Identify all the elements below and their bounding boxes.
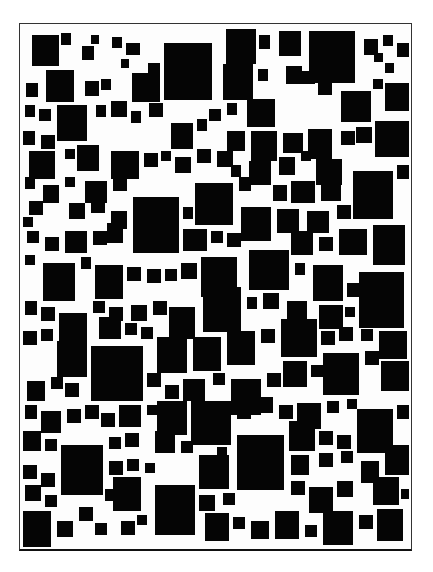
black-square bbox=[41, 411, 61, 433]
black-square bbox=[397, 405, 409, 419]
black-square bbox=[137, 515, 147, 525]
black-square bbox=[144, 153, 158, 167]
black-square bbox=[347, 399, 357, 409]
black-square bbox=[91, 35, 99, 44]
black-square bbox=[227, 131, 245, 151]
black-square bbox=[101, 79, 111, 90]
black-square bbox=[233, 517, 245, 529]
black-square bbox=[126, 43, 140, 55]
black-square bbox=[339, 229, 367, 255]
black-square bbox=[132, 73, 160, 102]
black-square bbox=[223, 64, 253, 100]
black-square bbox=[385, 63, 394, 73]
black-square bbox=[181, 441, 193, 453]
black-square bbox=[318, 83, 332, 95]
black-square bbox=[301, 151, 311, 161]
black-square bbox=[313, 265, 343, 301]
black-square bbox=[125, 433, 139, 447]
black-square bbox=[291, 455, 309, 475]
black-square bbox=[373, 79, 383, 89]
black-square bbox=[79, 507, 93, 521]
black-square bbox=[57, 521, 73, 537]
black-square bbox=[27, 231, 39, 243]
black-square bbox=[379, 331, 407, 359]
black-square bbox=[258, 69, 268, 81]
black-square bbox=[359, 272, 404, 328]
black-square bbox=[226, 29, 256, 64]
black-square bbox=[25, 485, 41, 501]
black-square bbox=[311, 365, 323, 377]
black-square bbox=[279, 31, 301, 56]
black-square bbox=[46, 70, 74, 102]
black-square bbox=[199, 495, 215, 511]
black-square bbox=[209, 109, 221, 121]
black-square bbox=[361, 329, 373, 341]
black-square bbox=[213, 373, 225, 385]
black-square bbox=[23, 331, 37, 345]
black-square bbox=[41, 307, 55, 321]
black-square bbox=[23, 511, 51, 547]
black-square bbox=[241, 207, 271, 241]
black-square bbox=[239, 177, 251, 191]
black-square bbox=[267, 373, 281, 387]
black-square bbox=[164, 43, 212, 100]
black-square bbox=[165, 385, 179, 399]
black-square bbox=[91, 346, 143, 401]
black-square bbox=[133, 197, 179, 253]
black-square bbox=[319, 237, 333, 251]
black-square bbox=[127, 459, 139, 471]
black-square bbox=[107, 223, 123, 243]
black-square bbox=[45, 495, 57, 507]
black-square bbox=[25, 405, 37, 419]
black-square bbox=[341, 91, 371, 122]
black-square bbox=[95, 523, 107, 535]
black-square bbox=[373, 225, 405, 265]
black-square bbox=[161, 151, 171, 161]
black-square bbox=[301, 71, 315, 84]
black-square bbox=[283, 133, 303, 153]
black-square bbox=[27, 381, 45, 401]
black-square bbox=[25, 177, 35, 189]
black-square bbox=[257, 397, 273, 413]
black-square bbox=[341, 451, 353, 463]
black-square bbox=[339, 327, 353, 341]
black-square bbox=[145, 463, 155, 473]
black-square bbox=[131, 111, 141, 123]
black-square bbox=[249, 161, 271, 185]
black-square bbox=[283, 361, 307, 387]
black-square bbox=[203, 287, 241, 332]
black-square bbox=[41, 473, 55, 487]
black-square bbox=[279, 157, 295, 175]
black-square bbox=[25, 301, 37, 315]
black-square bbox=[65, 149, 75, 159]
black-square bbox=[125, 323, 137, 335]
black-square bbox=[147, 269, 161, 283]
black-square bbox=[181, 263, 197, 279]
black-square bbox=[227, 103, 237, 115]
black-square bbox=[65, 383, 79, 397]
black-square bbox=[197, 149, 211, 163]
black-square bbox=[147, 405, 157, 415]
black-square bbox=[77, 145, 99, 171]
black-square bbox=[327, 401, 339, 413]
black-square bbox=[365, 351, 379, 365]
black-square bbox=[259, 35, 270, 49]
black-square bbox=[113, 477, 141, 511]
black-square bbox=[93, 301, 105, 313]
black-square bbox=[375, 121, 409, 157]
black-square bbox=[373, 477, 399, 505]
black-square bbox=[193, 337, 221, 371]
black-square bbox=[295, 263, 305, 275]
black-square bbox=[23, 465, 37, 479]
black-square bbox=[157, 401, 187, 435]
black-square bbox=[385, 445, 409, 475]
black-square bbox=[199, 455, 229, 489]
black-square bbox=[385, 83, 409, 111]
black-square bbox=[359, 515, 373, 529]
black-square bbox=[183, 207, 193, 219]
black-square bbox=[211, 231, 223, 243]
black-square bbox=[309, 31, 355, 83]
black-square bbox=[337, 481, 353, 497]
black-square bbox=[23, 131, 35, 145]
black-square bbox=[111, 101, 127, 117]
